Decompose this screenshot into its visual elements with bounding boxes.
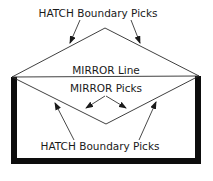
top-hatch-label: HATCH Boundary Picks (39, 7, 158, 19)
mirror-picks-label: MIRROR Picks (70, 82, 142, 94)
right-wall (195, 76, 201, 164)
top-left-leader-arrow (70, 20, 80, 43)
left-wall (11, 77, 17, 164)
bottom-wall (11, 158, 201, 164)
mirror-pick-left-arrow (86, 96, 105, 108)
hatch-mirror-diagram: HATCH Boundary Picks MIRROR Line MIRROR … (0, 0, 213, 181)
mirror-line (12, 76, 199, 77)
bottom-hatch-label: HATCH Boundary Picks (41, 140, 160, 152)
mirror-pick-right-arrow (106, 96, 126, 108)
bottom-left-leader-arrow (55, 103, 74, 140)
bottom-right-leader-arrow (139, 102, 156, 140)
top-right-leader-arrow (131, 20, 140, 43)
mirror-line-label: MIRROR Line (72, 64, 140, 76)
